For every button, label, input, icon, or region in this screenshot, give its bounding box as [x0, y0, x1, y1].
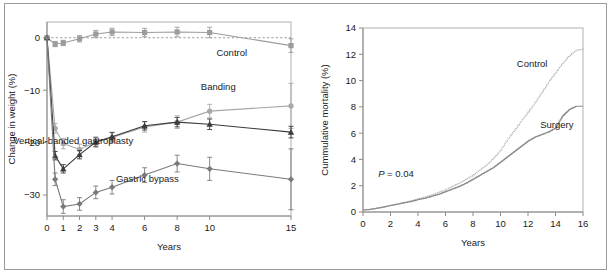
x-axis-tick-label: 8 — [470, 218, 475, 229]
x-axis-tick-label: 2 — [77, 222, 82, 233]
data-point-marker — [207, 166, 213, 172]
x-axis-tick-label: 14 — [550, 218, 561, 229]
data-point-marker — [52, 153, 58, 159]
data-point-marker — [174, 160, 180, 166]
y-axis-tick-label: 8 — [351, 101, 356, 112]
cumulative-mortality-chart: 02468101214Cummulative mortality (%)0246… — [311, 0, 611, 274]
data-point-marker — [61, 40, 66, 45]
x-axis-tick-label: 4 — [415, 218, 420, 229]
x-axis-tick-label: 15 — [286, 222, 297, 233]
series-label-surgery: Surgery — [540, 119, 574, 130]
x-axis-tick-label: 1 — [61, 222, 66, 233]
x-axis-tick-label: 3 — [93, 222, 98, 233]
y-axis-tick-label: 4 — [351, 154, 356, 165]
y-axis-tick-label: 2 — [351, 180, 356, 191]
data-point-marker — [77, 36, 82, 41]
data-point-marker — [93, 31, 98, 36]
x-axis-tick-label: 4 — [109, 222, 114, 233]
y-axis-tick-label: 14 — [345, 22, 356, 33]
series-label-banding: Banding — [201, 81, 236, 92]
x-axis-tick-label: 0 — [360, 218, 365, 229]
series-line — [47, 38, 291, 169]
series-vertical-banded-gastroplasty — [44, 35, 294, 173]
data-point-marker — [288, 176, 294, 182]
x-axis-tick-label: 10 — [495, 218, 506, 229]
x-axis-tick-label: 6 — [142, 222, 147, 233]
x-axis-tick-label: 10 — [204, 222, 215, 233]
y-axis-tick-label: 6 — [351, 128, 356, 139]
x-axis-tick-label: 8 — [174, 222, 179, 233]
data-point-marker — [207, 109, 212, 114]
data-point-marker — [175, 29, 180, 34]
x-axis-tick-label: 16 — [578, 218, 589, 229]
series-gastric-bypass — [44, 35, 294, 214]
data-point-marker — [142, 30, 147, 35]
x-axis-tick-label: 0 — [44, 222, 49, 233]
data-point-marker — [52, 176, 58, 182]
panel-weight-change: 0−10−20−30Change in weight (%)0123468101… — [0, 0, 311, 274]
series-line — [47, 32, 291, 46]
data-point-marker — [53, 41, 58, 46]
y-axis-tick-label: 12 — [345, 49, 356, 60]
series-label-control: Control — [216, 47, 247, 58]
plot-frame — [47, 22, 291, 216]
series-control — [44, 27, 293, 52]
p-value-annotation: P = 0.04 — [378, 168, 414, 179]
x-axis-title: Years — [157, 241, 181, 252]
data-point-marker — [288, 103, 293, 108]
y-axis-title: Cummulative mortality (%) — [319, 64, 330, 175]
figure-root: 0−10−20−30Change in weight (%)0123468101… — [0, 0, 611, 274]
y-axis-title: Change in weight (%) — [6, 74, 17, 165]
panel-cumulative-mortality: 02468101214Cummulative mortality (%)0246… — [311, 0, 611, 274]
y-axis-tick-label: −30 — [24, 189, 40, 200]
data-point-marker — [288, 43, 293, 48]
y-axis-tick-label: 0 — [35, 32, 40, 43]
data-point-marker — [207, 30, 212, 35]
x-axis-title: Years — [461, 237, 485, 248]
series-label-control: Control — [517, 58, 548, 69]
data-point-marker — [60, 203, 66, 209]
y-axis-tick-label: 0 — [351, 206, 356, 217]
series-label-vertical-banded-gastroplasty: Vertical-banded gastroplasty — [13, 135, 133, 146]
data-point-marker — [109, 29, 114, 34]
x-axis-tick-label: 12 — [523, 218, 534, 229]
weight-change-chart: 0−10−20−30Change in weight (%)0123468101… — [0, 0, 311, 274]
x-axis-tick-label: 6 — [443, 218, 448, 229]
data-point-marker — [109, 184, 115, 190]
y-axis-tick-label: 10 — [345, 75, 356, 86]
series-line — [47, 38, 291, 150]
x-axis-tick-label: 2 — [388, 218, 393, 229]
y-axis-tick-label: −10 — [24, 85, 40, 96]
series-label-gastric-bypass: Gastric bypass — [116, 173, 179, 184]
